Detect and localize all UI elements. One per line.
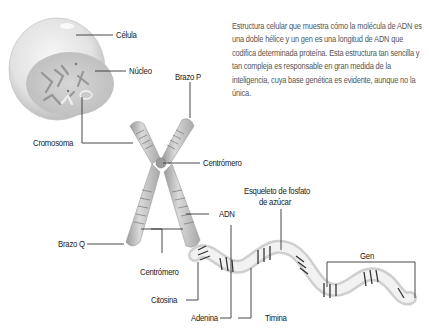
label-adenina: Adenina <box>191 312 218 323</box>
label-centromero-top: Centrómero <box>203 157 242 168</box>
nucleus <box>26 52 114 116</box>
label-nucleo: Núcleo <box>129 65 152 76</box>
chromosome-illustration <box>126 119 200 247</box>
label-centromero-bottom: Centrómero <box>140 266 179 277</box>
label-esqueleto-1: Esqueleto de fosfato <box>244 185 310 196</box>
label-timina: Timina <box>265 312 287 323</box>
cell-illustration <box>9 18 114 120</box>
diagram-stage: Célula Núcleo Brazo P Cromosoma Centróme… <box>0 0 429 334</box>
label-gen: Gen <box>360 250 374 261</box>
label-cromosoma: Cromosoma <box>33 137 73 148</box>
label-celula: Célula <box>116 29 137 40</box>
label-esqueleto-2: de azúcar <box>259 196 291 207</box>
label-brazo-p: Brazo P <box>175 71 201 82</box>
dna-helix-illustration <box>195 246 410 298</box>
description-text: Estructura celular que muestra cómo la m… <box>232 20 426 100</box>
label-citosina: Citosina <box>151 294 177 305</box>
label-adn: ADN <box>219 208 235 219</box>
label-brazo-q: Brazo Q <box>58 238 85 249</box>
